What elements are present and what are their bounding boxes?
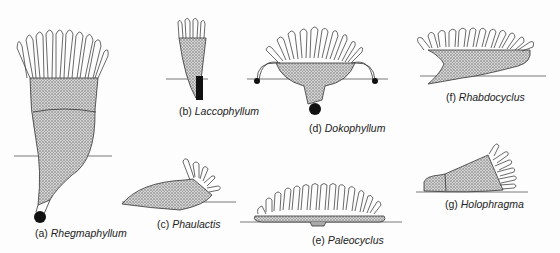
label-genus: Dokophyllum — [325, 122, 386, 134]
label-specimen-e: (e) Paleocyclus — [312, 234, 384, 246]
specimen-e-drawing — [240, 184, 402, 227]
coral-figure: (a) Rhegmaphyllum (b) Laccophyllum (c) P… — [0, 0, 560, 253]
label-letter: (e) — [312, 234, 325, 246]
label-letter: (a) — [35, 227, 48, 239]
label-genus: Phaulactis — [172, 218, 220, 230]
specimen-f-drawing — [418, 28, 547, 84]
label-genus: Laccophyllum — [195, 105, 259, 117]
label-letter: (f) — [446, 91, 456, 103]
label-genus: Holophragma — [461, 198, 524, 210]
specimen-g-drawing — [416, 144, 528, 192]
specimen-c-drawing — [122, 159, 236, 210]
label-genus: Paleocyclus — [328, 234, 384, 246]
label-specimen-g: (g) Holophragma — [445, 198, 524, 210]
specimen-a-drawing — [14, 30, 112, 223]
label-specimen-b: (b) Laccophyllum — [179, 105, 259, 117]
label-letter: (c) — [157, 218, 169, 230]
label-letter: (d) — [309, 122, 322, 134]
label-genus: Rhegmaphyllum — [51, 227, 127, 239]
label-specimen-c: (c) Phaulactis — [157, 218, 221, 230]
label-specimen-f: (f) Rhabdocyclus — [446, 91, 525, 103]
label-specimen-d: (d) Dokophyllum — [309, 122, 385, 134]
specimen-d-drawing — [247, 27, 388, 115]
label-specimen-a: (a) Rhegmaphyllum — [35, 227, 127, 239]
label-letter: (b) — [179, 105, 192, 117]
label-genus: Rhabdocyclus — [459, 91, 525, 103]
label-letter: (g) — [445, 198, 458, 210]
specimen-b-drawing — [166, 18, 208, 100]
coral-illustrations — [0, 0, 560, 253]
